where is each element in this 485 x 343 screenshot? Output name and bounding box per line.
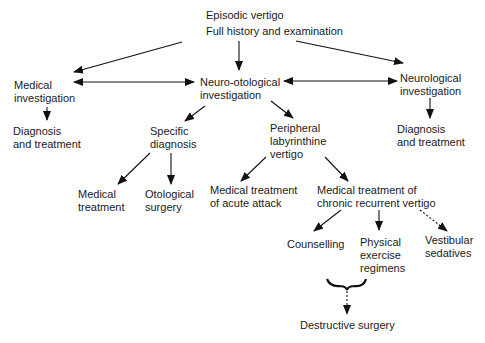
node-line: Medical bbox=[14, 79, 75, 92]
node-line: Vestibular bbox=[425, 234, 473, 247]
node-line: investigation bbox=[400, 85, 461, 98]
arrow-root-to-medical bbox=[74, 42, 182, 72]
node-diagnosis-left: Diagnosis and treatment bbox=[13, 125, 81, 151]
node-line: Neurological bbox=[400, 72, 461, 85]
node-neurological-investigation: Neurological investigation bbox=[400, 72, 461, 98]
node-counselling: Counselling bbox=[287, 238, 344, 251]
node-medical-investigation: Medical investigation bbox=[14, 79, 75, 105]
node-line: regimens bbox=[360, 262, 405, 275]
node-line: Full history and examination bbox=[206, 25, 343, 38]
node-line: exercise bbox=[360, 249, 405, 262]
node-line: Neuro-otological bbox=[200, 76, 280, 89]
vertigo-flowchart: Episodic vertigo Full history and examin… bbox=[0, 0, 485, 343]
arrow-chronic-to-vestibular bbox=[420, 210, 447, 231]
node-line: Episodic vertigo bbox=[206, 9, 343, 22]
node-neuro-otological-investigation: Neuro-otological investigation bbox=[200, 76, 280, 102]
node-otological-surgery: Otological surgery bbox=[145, 188, 194, 214]
node-vestibular-sedatives: Vestibular sedatives bbox=[425, 234, 473, 260]
node-line: investigation bbox=[14, 92, 75, 105]
node-line: treatment bbox=[78, 201, 124, 214]
node-line: Diagnosis bbox=[13, 125, 81, 138]
arrow-root-to-neurological bbox=[296, 41, 403, 63]
arrow-peripheral-to-chronic bbox=[325, 157, 348, 181]
node-line: Medical bbox=[78, 188, 124, 201]
flowchart-edges bbox=[0, 0, 485, 343]
arrow-neuro-otological-to-specific bbox=[185, 106, 205, 121]
node-specific-diagnosis: Specific diagnosis bbox=[150, 125, 196, 151]
node-line: Counselling bbox=[287, 238, 344, 251]
node-line: of acute attack bbox=[210, 197, 297, 210]
node-line: Peripheral bbox=[270, 122, 326, 135]
node-line: chronic recurrent vertigo bbox=[317, 197, 436, 210]
node-line: Otological bbox=[145, 188, 194, 201]
node-line: and treatment bbox=[397, 136, 465, 149]
node-line: Medical treatment of bbox=[317, 184, 436, 197]
node-line: investigation bbox=[200, 89, 280, 102]
node-destructive-surgery: Destructive surgery bbox=[300, 319, 395, 332]
arrow-peripheral-to-acute bbox=[241, 157, 266, 181]
node-line: Diagnosis bbox=[397, 123, 465, 136]
node-episodic-vertigo: Episodic vertigo Full history and examin… bbox=[206, 9, 343, 38]
node-chronic-recurrent-vertigo: Medical treatment of chronic recurrent v… bbox=[317, 184, 436, 210]
node-line: sedatives bbox=[425, 247, 473, 260]
node-physical-exercise: Physical exercise regimens bbox=[360, 236, 405, 275]
node-line: Specific bbox=[150, 125, 196, 138]
node-medical-treatment: Medical treatment bbox=[78, 188, 124, 214]
node-diagnosis-right: Diagnosis and treatment bbox=[397, 123, 465, 149]
node-line: Physical bbox=[360, 236, 405, 249]
node-line: surgery bbox=[145, 201, 194, 214]
node-acute-attack: Medical treatment of acute attack bbox=[210, 184, 297, 210]
arrow-chronic-to-counselling bbox=[314, 210, 341, 231]
node-line: Medical treatment bbox=[210, 184, 297, 197]
brace-counselling-physical bbox=[327, 279, 366, 290]
node-line: Destructive surgery bbox=[300, 319, 395, 332]
node-peripheral-labyrinthine-vertigo: Peripheral labyrinthine vertigo bbox=[270, 122, 326, 161]
arrow-neuro-otological-to-peripheral bbox=[271, 101, 293, 118]
node-line: diagnosis bbox=[150, 138, 196, 151]
node-line: vertigo bbox=[270, 148, 326, 161]
node-line: labyrinthine bbox=[270, 135, 326, 148]
node-line: and treatment bbox=[13, 138, 81, 151]
arrow-specific-to-medical-treatment bbox=[118, 153, 150, 184]
